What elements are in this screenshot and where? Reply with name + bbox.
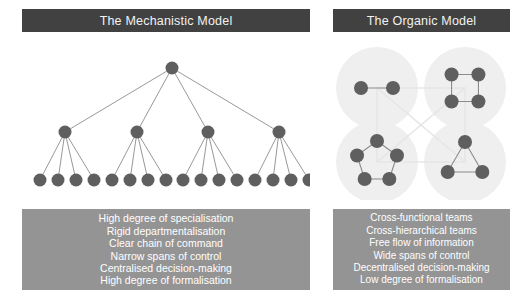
node-circle <box>202 126 215 139</box>
attribute-line: Decentralised decision-making <box>353 262 489 274</box>
edge-line <box>273 132 279 180</box>
organic-title: The Organic Model <box>367 14 477 28</box>
node-circle <box>34 174 47 187</box>
node-circle <box>285 174 298 187</box>
edge-line <box>208 132 237 180</box>
attribute-line: Low degree of formalisation <box>360 274 483 286</box>
node-circle <box>354 81 368 95</box>
node-circle <box>160 174 173 187</box>
node-circle <box>441 165 455 179</box>
node-circle <box>249 174 262 187</box>
node-circle <box>142 174 155 187</box>
attribute-line: Narrow spans of control <box>111 250 222 262</box>
attribute-line: Centralised decision-making <box>100 262 232 274</box>
edge-line <box>65 132 76 180</box>
node-circle <box>303 174 311 187</box>
edge-line <box>65 68 172 132</box>
mechanistic-attributes-panel: High degree of specialisation Rigid depa… <box>22 209 310 290</box>
organic-network-diagram <box>333 40 510 200</box>
hierarchy-tree-svg <box>22 40 310 200</box>
node-circle <box>131 126 144 139</box>
attribute-line: High degree of specialisation <box>99 212 234 224</box>
mechanistic-hierarchy-diagram <box>22 40 310 200</box>
edge-line <box>137 68 172 132</box>
network-clusters-svg <box>333 40 510 200</box>
edge-line <box>65 132 94 180</box>
node-circle <box>70 174 83 187</box>
edge-line <box>172 68 208 132</box>
edge-line <box>279 132 291 180</box>
edge-line <box>208 132 219 180</box>
mechanistic-header-bar: The Mechanistic Model <box>22 9 310 32</box>
edge-line <box>279 132 309 180</box>
attribute-line: Wide spans of control <box>373 250 469 262</box>
edge-line <box>137 132 166 180</box>
node-circle <box>458 135 472 149</box>
organic-attributes-panel: Cross-functional teams Cross-hierarchica… <box>333 209 510 290</box>
node-circle <box>124 174 137 187</box>
node-circle <box>52 174 65 187</box>
node-circle <box>106 174 119 187</box>
node-circle <box>471 94 485 108</box>
tree-edge-group <box>40 68 309 180</box>
node-circle <box>390 149 404 163</box>
node-circle <box>358 172 372 186</box>
attribute-line: Rigid departmentalisation <box>107 225 225 237</box>
attribute-line: Cross-functional teams <box>370 212 472 224</box>
node-circle <box>213 174 226 187</box>
organic-header-bar: The Organic Model <box>333 9 510 32</box>
node-circle <box>273 126 286 139</box>
edge-line <box>137 132 148 180</box>
node-circle <box>231 174 244 187</box>
node-circle <box>445 94 459 108</box>
node-circle <box>59 126 72 139</box>
attribute-line: High degree of formalisation <box>100 274 231 286</box>
node-circle <box>471 68 485 82</box>
edge-line <box>172 68 279 132</box>
node-circle <box>445 68 459 82</box>
attribute-line: Clear chain of command <box>109 237 223 249</box>
node-circle <box>370 134 384 148</box>
mechanistic-title: The Mechanistic Model <box>100 14 233 28</box>
tree-node-group <box>34 62 311 187</box>
node-circle <box>350 149 364 163</box>
attribute-line: Cross-hierarchical teams <box>366 225 477 237</box>
node-circle <box>267 174 280 187</box>
node-circle <box>382 172 396 186</box>
edge-line <box>255 132 279 180</box>
node-circle <box>177 174 190 187</box>
node-circle <box>475 165 489 179</box>
node-circle <box>195 174 208 187</box>
node-circle <box>386 81 400 95</box>
node-circle <box>88 174 101 187</box>
attribute-line: Free flow of information <box>369 237 474 249</box>
node-circle <box>166 62 179 75</box>
